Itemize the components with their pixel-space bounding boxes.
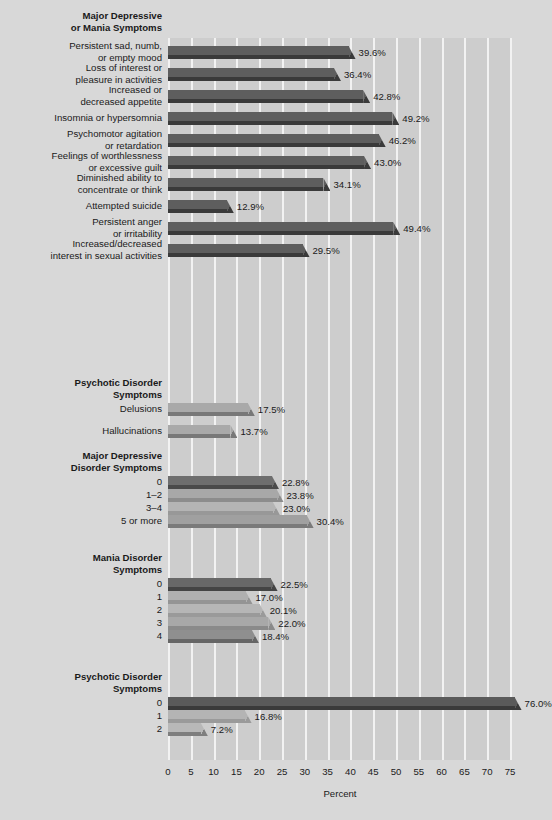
bar-face [168,112,392,121]
bar-face [168,425,230,434]
bar-face [168,489,277,498]
group-heading-5: Psychotic Disorder Symptoms [4,671,168,694]
category-label: Persistent anger or irritability [4,216,168,239]
bar [168,617,268,626]
bar [168,244,303,253]
bar [168,112,392,121]
group-heading-1: Major Depressive or Mania Symptoms [4,10,168,33]
category-label: 3 [4,617,168,629]
bar [168,134,379,143]
bar-shadow [168,209,227,213]
bar-value-label: 18.4% [262,631,289,642]
category-label: 2 [4,723,168,735]
bar-face [168,156,364,165]
bar [168,723,201,732]
x-tick-label: 35 [316,766,340,777]
group-heading-2: Psychotic Disorder Symptoms [4,377,168,400]
x-tick-label: 45 [361,766,385,777]
bar-value-label: 22.5% [281,579,308,590]
bar-face [168,502,273,511]
bar-shadow [168,732,201,736]
bar-shadow [168,253,303,257]
bar-face [168,90,363,99]
category-label: 4 [4,630,168,642]
category-label: 1 [4,591,168,603]
category-label: 5 or more [4,515,168,527]
bar-face [168,200,227,209]
bar [168,502,273,511]
bar-bevel [515,697,522,710]
x-tick-label: 55 [407,766,431,777]
bar-shadow [168,121,392,125]
category-label: 2 [4,604,168,616]
x-tick-label: 20 [247,766,271,777]
category-label: Increased/decreased interest in sexual a… [4,238,168,261]
bar [168,630,252,639]
x-tick-label: 70 [475,766,499,777]
gridline [464,38,466,760]
bar-shadow [168,231,393,235]
bar-shadow [168,55,349,59]
gridline [419,38,421,760]
bar-face [168,591,246,600]
bar-value-label: 76.0% [525,698,552,709]
bar-face [168,697,515,706]
bar-value-label: 43.0% [374,157,401,168]
bar-shadow [168,412,248,416]
bar-face [168,630,252,639]
bar-value-label: 20.1% [270,605,297,616]
bar-face [168,68,334,77]
bar-face [168,578,271,587]
x-tick-label: 5 [179,766,203,777]
category-label: 0 [4,476,168,488]
bar [168,222,393,231]
bar-shadow [168,639,252,643]
bar [168,710,245,719]
category-label: Hallucinations [4,425,168,437]
x-tick-label: 60 [430,766,454,777]
bar [168,578,271,587]
category-labels-column: Major Depressive or Mania SymptomsPersis… [0,0,168,820]
group-heading-3: Major Depressive Disorder Symptoms [4,450,168,473]
x-tick-label: 10 [202,766,226,777]
bar-value-label: 34.1% [333,179,360,190]
bar-shadow [168,77,334,81]
bar-value-label: 36.4% [344,69,371,80]
bar-face [168,617,268,626]
bar-value-label: 16.8% [255,711,282,722]
category-label: 1 [4,710,168,722]
bar [168,178,323,187]
bar [168,403,248,412]
x-tick-label: 65 [452,766,476,777]
bar-face [168,244,303,253]
category-label: Feelings of worthlessness or excessive g… [4,150,168,173]
category-label: Diminished ability to concentrate or thi… [4,172,168,195]
bar-face [168,723,201,732]
bar-value-label: 46.2% [389,135,416,146]
bar-value-label: 22.8% [282,477,309,488]
x-tick-label: 0 [156,766,180,777]
bar-value-label: 17.0% [256,592,283,603]
bar-face [168,46,349,55]
bar [168,591,246,600]
category-label: Psychomotor agitation or retardation [4,128,168,151]
category-label: 1–2 [4,489,168,501]
bar-value-label: 23.8% [287,490,314,501]
bar [168,156,364,165]
bar-face [168,476,272,485]
bar-value-label: 12.9% [237,201,264,212]
bar-value-label: 42.8% [373,91,400,102]
bar-value-label: 49.2% [402,113,429,124]
bar-face [168,710,245,719]
category-label: 0 [4,697,168,709]
bar-value-label: 39.6% [359,47,386,58]
bar-value-label: 17.5% [258,404,285,415]
x-tick-label: 25 [270,766,294,777]
bar-value-label: 49.4% [403,223,430,234]
gridline [396,38,398,760]
bar-value-label: 7.2% [211,724,233,735]
bar-value-label: 23.0% [283,503,310,514]
gridline [487,38,489,760]
x-tick-label: 30 [293,766,317,777]
bar-shadow [168,187,323,191]
